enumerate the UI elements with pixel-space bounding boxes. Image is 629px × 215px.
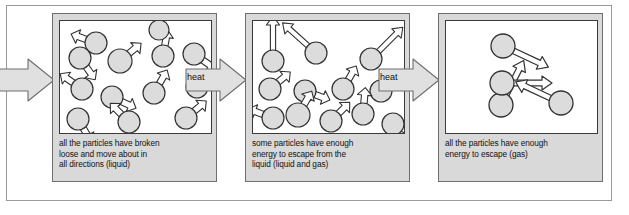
diagram-canvas: all the particles have broken loose and … — [0, 0, 629, 215]
transition-heat-1: heat — [186, 58, 248, 102]
entry-arrow — [0, 57, 56, 103]
panel-gas: all the particles have enough energy to … — [438, 13, 603, 182]
transition-heat-2: heat — [379, 58, 441, 102]
heat-label-1: heat — [187, 72, 205, 82]
heat-label-2: heat — [380, 72, 398, 82]
entry-arrow-shape — [0, 57, 56, 103]
particle-group — [489, 34, 573, 117]
panel-caption-mixed: some particles have enough energy to esc… — [252, 138, 408, 170]
panel-caption-liquid: all the particles have broken loose and … — [59, 138, 215, 170]
panel-caption-gas: all the particles have enough energy to … — [445, 138, 601, 159]
particles-gas — [446, 21, 598, 134]
particle-box-gas — [445, 20, 598, 134]
